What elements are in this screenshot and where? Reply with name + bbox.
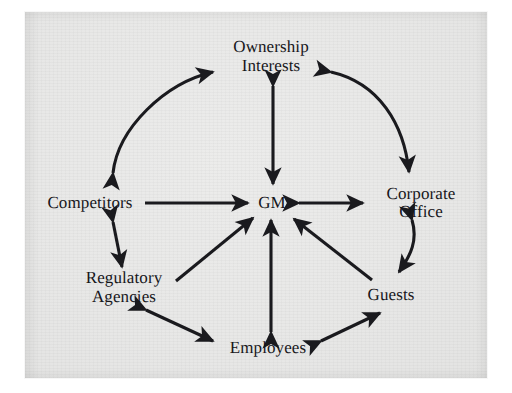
node-ownership-interests[interactable]: Ownership Interests [233, 37, 309, 75]
node-corporate-office[interactable]: Corporate Office [376, 185, 467, 221]
node-employees[interactable]: Employees [230, 339, 306, 357]
node-gm[interactable]: GM [258, 194, 286, 212]
edge-regulatory-gm [176, 218, 253, 281]
edge-corporate-guests [399, 220, 414, 272]
node-regulatory-agencies[interactable]: Regulatory Agencies [86, 268, 163, 306]
node-guests[interactable]: Guests [368, 286, 415, 304]
edge-employees-guests [321, 313, 380, 341]
edge-regulatory-employees [146, 310, 213, 341]
node-competitors[interactable]: Competitors [47, 194, 132, 212]
edge-competitors-regulatory [113, 222, 122, 267]
edge-ownership-corporate [331, 72, 409, 172]
edge-guests-gm [294, 219, 372, 280]
diagram-figure: Ownership Interests Competitors GM Corpo… [0, 0, 512, 393]
edge-competitors-ownership [113, 72, 213, 173]
